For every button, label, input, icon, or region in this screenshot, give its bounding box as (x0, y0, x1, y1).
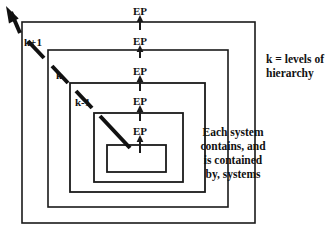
diagonal-hierarchy-arrow (6, 6, 130, 148)
containment-note-line-3: is contained (204, 154, 263, 166)
containment-note: Each systemcontains, andis containedby, … (200, 126, 266, 181)
containment-note-line-2: contains, and (200, 140, 266, 152)
ep-label-1: EP (133, 5, 147, 17)
ep-markers-group: EPEPEPEPEP (133, 5, 147, 153)
hierarchy-level-label-3: k-1 (75, 96, 90, 108)
annotation-notes-group: k = levels ofhierarchyEach systemcontain… (200, 53, 324, 181)
ep-label-4: EP (133, 95, 147, 107)
hierarchy-diagram: EPEPEPEPEP k+1kk-1 k = levels ofhierarch… (0, 0, 334, 236)
level-labels-group: k+1kk-1 (24, 36, 90, 108)
containment-note-line-4: by, systems (206, 168, 261, 181)
hierarchy-level-label-2: k (56, 69, 63, 81)
ep-label-2: EP (133, 35, 147, 47)
diagram-canvas: EPEPEPEPEP k+1kk-1 k = levels ofhierarch… (0, 0, 334, 236)
system-boundary-rect-5 (107, 145, 166, 172)
hierarchy-level-label-1: k+1 (24, 36, 42, 48)
legend-note-line-2: hierarchy (266, 67, 314, 80)
nested-rectangles-group (22, 22, 255, 223)
ep-label-5: EP (133, 125, 147, 137)
ep-label-3: EP (133, 65, 147, 77)
diagonal-arrow-segment-1 (100, 116, 130, 148)
legend-note-line-1: k = levels of (266, 53, 324, 65)
legend-note: k = levels ofhierarchy (266, 53, 324, 80)
containment-note-line-1: Each system (202, 126, 263, 139)
